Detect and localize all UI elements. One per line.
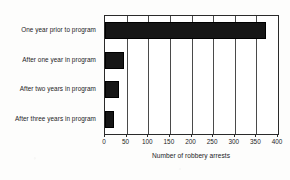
- tick-label: 350: [245, 138, 265, 146]
- tick-mark: [169, 134, 170, 137]
- bar: [105, 111, 114, 128]
- category-label: After one year in program: [0, 56, 96, 63]
- tick-label: 300: [224, 138, 244, 146]
- tick-mark: [255, 134, 256, 137]
- category-label: After two years in program: [0, 85, 96, 92]
- category-axis-labels: One year prior to programAfter one year …: [0, 15, 99, 133]
- tick-label: 250: [202, 138, 222, 146]
- bar: [105, 22, 266, 39]
- tick-label: 0: [94, 138, 114, 146]
- tick-label: 150: [159, 138, 179, 146]
- tick-mark: [147, 134, 148, 137]
- x-axis-title: Number of robbery arrests: [104, 152, 278, 159]
- tick-mark: [212, 134, 213, 137]
- bar: [105, 52, 124, 69]
- category-label: After three years in program: [0, 115, 96, 122]
- tick-label: 200: [181, 138, 201, 146]
- tick-mark: [191, 134, 192, 137]
- bar: [105, 81, 119, 98]
- tick-label: 100: [137, 138, 157, 146]
- tick-label: 50: [116, 138, 136, 146]
- tick-mark: [277, 134, 278, 137]
- bar-chart: One year prior to programAfter one year …: [0, 0, 290, 180]
- category-label: One year prior to program: [0, 26, 96, 33]
- tick-label: 400: [267, 138, 287, 146]
- plot-area: [104, 15, 279, 135]
- tick-mark: [126, 134, 127, 137]
- tick-mark: [104, 134, 105, 137]
- tick-mark: [234, 134, 235, 137]
